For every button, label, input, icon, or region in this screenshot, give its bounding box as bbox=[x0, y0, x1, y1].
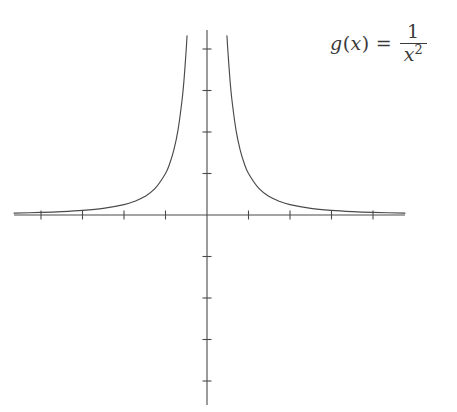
formula-open-paren: ( bbox=[342, 34, 350, 53]
curve-left-branch bbox=[14, 36, 187, 213]
function-graph-figure: g(x) = 1 x2 bbox=[0, 0, 457, 412]
function-formula-label: g(x) = 1 x2 bbox=[330, 22, 427, 65]
formula-variable: x bbox=[351, 34, 362, 53]
formula-close-paren: ) bbox=[361, 34, 369, 53]
formula-denominator-base: x bbox=[404, 43, 415, 65]
formula-fraction: 1 x2 bbox=[400, 22, 427, 65]
formula-denominator: x2 bbox=[400, 44, 427, 65]
axes-group bbox=[14, 30, 405, 405]
formula-function-name: g bbox=[330, 34, 342, 53]
formula-equals-sign: = bbox=[376, 34, 392, 53]
formula-numerator: 1 bbox=[403, 22, 423, 43]
formula-denominator-exponent: 2 bbox=[414, 42, 422, 57]
